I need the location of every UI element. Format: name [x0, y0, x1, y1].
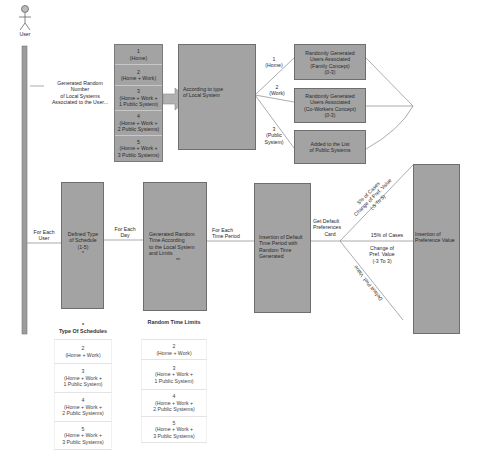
random-time-text: Generated Random Time According to the L…: [149, 231, 207, 263]
local-system-count-stack: 1 (Home) 2 (Home + Work) 3 (Home + Work …: [114, 44, 163, 162]
row-line: 2 Public Systems): [153, 406, 195, 412]
branch-label-home: 1 (Home): [262, 56, 286, 69]
box-line: *: [62, 250, 104, 256]
target-line: of Public Systems: [297, 147, 363, 153]
table-row: 5 (Home + Work + 3 Public Systems): [54, 421, 112, 450]
row-line: 1 Public System): [64, 381, 103, 387]
schedule-types-header: * Type Of Schedules: [54, 317, 112, 339]
system-count-2: 2 (Home + Work): [115, 65, 162, 86]
decision-text: According to type of Local System: [183, 86, 255, 99]
coworker-users-box: Randomly Generated Users Associated (Co-…: [294, 88, 366, 123]
edge-for-each-user: For Each User: [30, 229, 58, 242]
table-title: Random Time Limits: [148, 319, 201, 325]
branch-label-work: 2 (Work): [265, 84, 289, 97]
decision-line: of Local System: [183, 92, 255, 98]
edge-get-default-preferences: Get Default Preferences Card: [313, 218, 347, 237]
random-time-limits-table: Random Time Limits 2 (Home + Work) 3 (Ho…: [141, 317, 207, 443]
branch-middle-bottom-label: Change of Pref. Value (-3 To 3): [362, 245, 402, 264]
row-line: 2 Public Systems): [62, 410, 104, 416]
family-users-box: Randomly Generated Users Associated (Fam…: [294, 44, 366, 80]
insertion-default-time-box: Insertion of Default Time Period with Ra…: [254, 183, 311, 313]
target-line: (0-3): [297, 112, 363, 118]
table-row: 4 (Home + Work + 2 Public Systems): [141, 389, 207, 416]
system-count-5: 5 (Home + Work + 3 Public Systems): [115, 136, 162, 161]
box-line: Generated: [259, 253, 311, 259]
table-row: 3 (Home + Work + 1 Public System): [141, 359, 207, 389]
table-row: 4 (Home + Work + 2 Public Systems): [54, 392, 112, 421]
public-systems-text: Added to the List of Public Systems: [297, 141, 363, 154]
edge-line: Time Period: [212, 233, 252, 239]
row-line: 3 Public Systems): [62, 439, 104, 445]
table-row: 2 (Home + Work): [54, 339, 112, 363]
count-desc: 1 Public System): [119, 101, 158, 107]
actor-label: User: [14, 31, 36, 37]
system-count-4: 4 (Home + Work + 2 Public Systems): [115, 111, 162, 136]
insertion-default-time-text: Insertion of Default Time Period with Ra…: [259, 234, 311, 260]
random-time-limits-header: Random Time Limits: [141, 317, 207, 339]
system-count-3: 3 (Home + Work + 1 Public System): [115, 86, 162, 111]
count-desc: 3 Public Systems): [118, 152, 160, 158]
note-line: Associated to the User...: [44, 99, 116, 105]
branch-line: (-3 To 3): [362, 258, 402, 264]
schedule-types-table: * Type Of Schedules 2 (Home + Work) 3 (H…: [54, 317, 112, 450]
user-actor: User: [14, 4, 36, 44]
count-desc: (Home + Work): [121, 75, 156, 81]
schedule-type-box: Defined Type of Schedule (1-5) *: [61, 182, 104, 309]
schedule-type-text: Defined Type of Schedule (1-5) *: [62, 231, 104, 257]
row-line: 1 Public System): [155, 378, 194, 384]
edge-line: User: [30, 235, 58, 241]
system-count-1: 1 (Home): [115, 45, 162, 65]
row-line: (Home + Work): [156, 350, 191, 356]
insertion-preference-value-box: Insertion of Preference Value: [413, 164, 460, 334]
table-row: 2 (Home + Work): [141, 339, 207, 359]
count-desc: (Home): [130, 55, 147, 61]
branch-label-line: (Work): [265, 90, 289, 96]
family-users-text: Randomly Generated Users Associated (Fam…: [297, 50, 363, 76]
table-row: 5 (Home + Work + 3 Public Systems): [141, 416, 207, 443]
target-line: (0-3): [297, 69, 363, 75]
table-row: 3 (Home + Work + 1 Public System): [54, 363, 112, 392]
branch-label-line: System): [262, 139, 286, 145]
edge-line: Card: [313, 231, 347, 237]
box-line: Preference Value: [415, 237, 461, 243]
local-system-type-box: According to type of Local System: [178, 44, 256, 150]
branch-label-public: 3 (Public System): [262, 126, 286, 145]
generated-random-note: Generated Random Number of Local Systems…: [44, 80, 116, 106]
edge-for-each-day: For Each Day: [110, 226, 140, 239]
table-title: Type Of Schedules: [59, 328, 107, 334]
edge-for-each-period: For Each Time Period: [212, 227, 252, 240]
random-time-box: Generated Random Time According to the L…: [143, 182, 207, 311]
insertion-preference-text: Insertion of Preference Value: [415, 231, 461, 244]
box-line: **: [149, 257, 207, 263]
public-systems-box: Added to the List of Public Systems: [294, 130, 366, 164]
count-desc: 2 Public Systems): [118, 126, 160, 132]
row-line: (Home + Work): [65, 352, 100, 358]
row-line: 3 Public Systems): [153, 433, 195, 439]
branch-middle-top-label: 15% of Cases: [362, 232, 412, 238]
coworker-users-text: Randomly Generated Users Associated (Co-…: [297, 93, 363, 119]
edge-line: Day: [110, 232, 140, 238]
branch-label-line: (Home): [262, 62, 286, 68]
